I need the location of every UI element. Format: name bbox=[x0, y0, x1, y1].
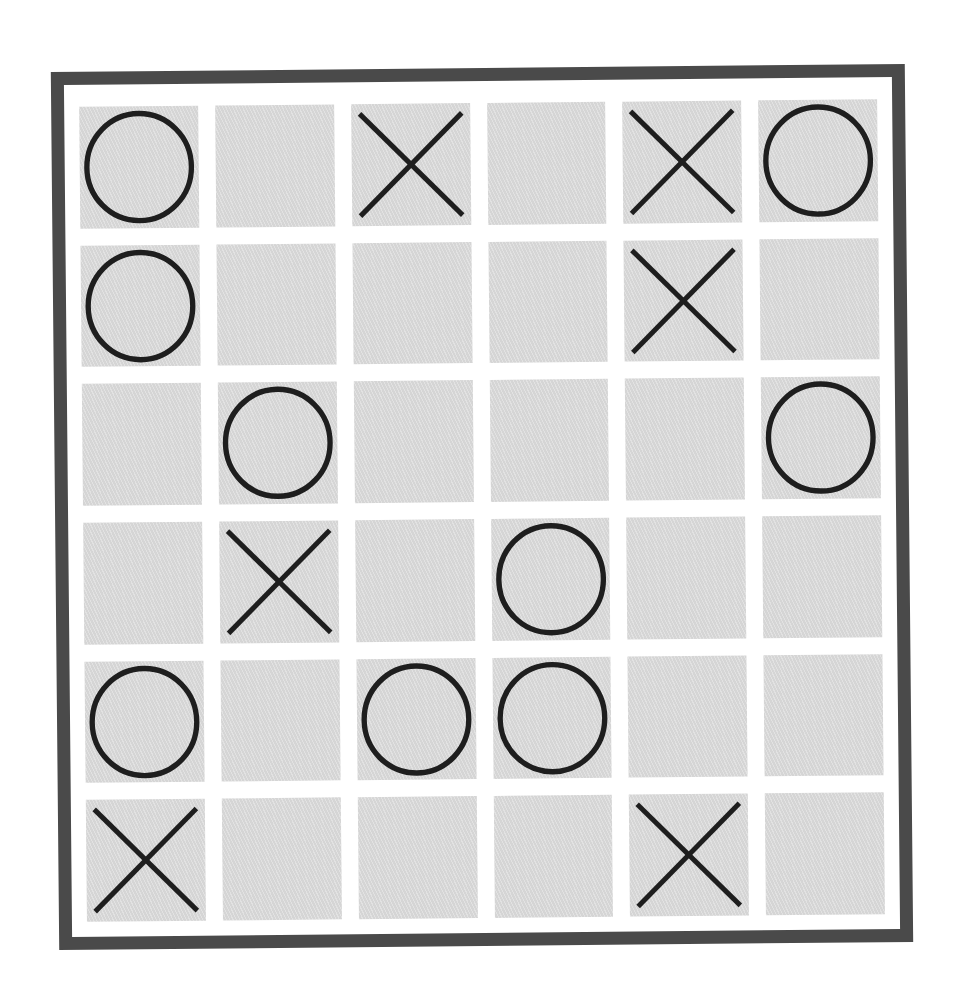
x-mark-icon bbox=[86, 799, 206, 922]
board-cell-r5-c5[interactable] bbox=[628, 655, 748, 778]
board-cell-r4-c4[interactable] bbox=[491, 518, 611, 641]
x-mark-icon bbox=[622, 100, 742, 223]
board-cell-r2-c2[interactable] bbox=[216, 243, 336, 366]
board-cell-r5-c1[interactable] bbox=[84, 660, 204, 783]
board-cell-r6-c4[interactable] bbox=[493, 795, 613, 918]
x-mark-icon bbox=[351, 103, 471, 226]
o-mark-icon bbox=[758, 99, 878, 222]
board-cell-r5-c6[interactable] bbox=[764, 654, 884, 777]
board-cell-r1-c4[interactable] bbox=[487, 102, 607, 225]
board-cell-r5-c4[interactable] bbox=[492, 656, 612, 779]
board-cell-r3-c6[interactable] bbox=[761, 377, 881, 500]
x-mark-icon bbox=[624, 239, 744, 362]
board-cell-r1-c2[interactable] bbox=[215, 104, 335, 227]
board-cell-r2-c3[interactable] bbox=[352, 242, 472, 365]
board-cell-r4-c1[interactable] bbox=[83, 522, 203, 645]
o-mark-icon bbox=[84, 660, 204, 783]
board-cell-r4-c2[interactable] bbox=[219, 520, 339, 643]
x-mark-icon bbox=[629, 794, 749, 917]
o-mark-icon bbox=[218, 382, 338, 505]
board-cell-r4-c5[interactable] bbox=[626, 516, 746, 639]
board-cell-r3-c1[interactable] bbox=[82, 383, 202, 506]
game-board bbox=[51, 64, 913, 950]
board-cell-r1-c1[interactable] bbox=[79, 106, 199, 229]
board-cell-r2-c5[interactable] bbox=[624, 239, 744, 362]
o-mark-icon bbox=[356, 658, 476, 781]
board-cell-r5-c2[interactable] bbox=[220, 659, 340, 782]
board-cell-r2-c6[interactable] bbox=[760, 238, 880, 361]
board-grid bbox=[79, 99, 885, 922]
board-cell-r4-c3[interactable] bbox=[355, 519, 475, 642]
o-mark-icon bbox=[492, 656, 612, 779]
board-cell-r1-c5[interactable] bbox=[622, 100, 742, 223]
o-mark-icon bbox=[491, 518, 611, 641]
o-mark-icon bbox=[79, 106, 199, 229]
board-cell-r3-c3[interactable] bbox=[353, 380, 473, 503]
board-cell-r2-c1[interactable] bbox=[80, 244, 200, 367]
board-cell-r1-c3[interactable] bbox=[351, 103, 471, 226]
board-cell-r4-c6[interactable] bbox=[762, 515, 882, 638]
o-mark-icon bbox=[80, 244, 200, 367]
board-cell-r1-c6[interactable] bbox=[758, 99, 878, 222]
board-cell-r6-c6[interactable] bbox=[765, 792, 885, 915]
board-cell-r6-c2[interactable] bbox=[222, 798, 342, 921]
o-mark-icon bbox=[761, 377, 881, 500]
x-mark-icon bbox=[219, 520, 339, 643]
board-cell-r6-c3[interactable] bbox=[357, 796, 477, 919]
board-cell-r3-c5[interactable] bbox=[625, 378, 745, 501]
board-cell-r2-c4[interactable] bbox=[488, 240, 608, 363]
board-cell-r3-c2[interactable] bbox=[218, 382, 338, 505]
board-cell-r6-c1[interactable] bbox=[86, 799, 206, 922]
board-cell-r3-c4[interactable] bbox=[489, 379, 609, 502]
board-cell-r5-c3[interactable] bbox=[356, 658, 476, 781]
board-cell-r6-c5[interactable] bbox=[629, 794, 749, 917]
